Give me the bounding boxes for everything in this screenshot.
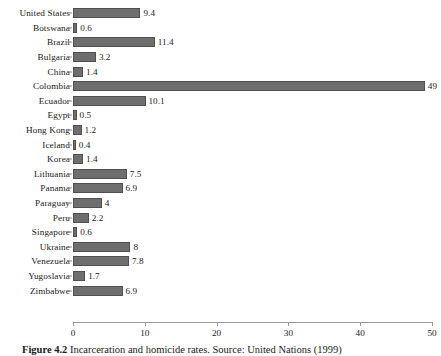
bar-row: Singapore0.6 (0, 225, 441, 240)
figure-caption-label: Figure 4.2 (22, 344, 67, 355)
bar-row: Hong Kong1.2 (0, 123, 441, 138)
bar-row: Colombia49 (0, 79, 441, 94)
bar-value-label: 0.6 (80, 227, 91, 237)
category-label: Singapore (32, 227, 70, 237)
category-tick (67, 276, 72, 277)
bar-row: Lithuania7.5 (0, 167, 441, 182)
bar (73, 23, 77, 33)
category-label: Panama (40, 183, 70, 193)
bar-row: Yugoslavia1.7 (0, 269, 441, 284)
bar-value-label: 4 (105, 198, 110, 208)
bar-row: Zimbabwe6.9 (0, 283, 441, 298)
bar-value-label: 49 (428, 81, 437, 91)
bar (73, 81, 425, 91)
x-axis-tick-label: 10 (140, 328, 149, 338)
category-label: Colombia (33, 81, 70, 91)
category-tick (67, 115, 72, 116)
bar (73, 213, 89, 223)
category-tick (67, 13, 72, 14)
bar (73, 110, 77, 120)
bar-row: Ecuador10.1 (0, 94, 441, 109)
bar (73, 37, 155, 47)
bar (73, 271, 85, 281)
bar-row: Botswana0.6 (0, 21, 441, 36)
category-tick (67, 203, 72, 204)
category-label: Ukraine (40, 242, 70, 252)
x-axis-tick (145, 322, 146, 326)
x-axis-tick-label: 50 (427, 328, 436, 338)
category-tick (67, 173, 72, 174)
category-tick (67, 130, 72, 131)
bar (73, 227, 77, 237)
category-tick (67, 71, 72, 72)
category-tick (67, 232, 72, 233)
bar-value-label: 6.9 (126, 183, 137, 193)
bar (73, 67, 83, 77)
category-label: Paraguay (35, 198, 70, 208)
bar-value-label: 7.5 (130, 169, 141, 179)
bar (73, 183, 123, 193)
bar-value-label: 0.5 (80, 110, 91, 120)
bar-value-label: 1.2 (85, 125, 96, 135)
category-label: Lithuania (34, 169, 70, 179)
bar-value-label: 1.4 (86, 154, 97, 164)
bar-row: Brazil11.4 (0, 35, 441, 50)
category-tick (67, 261, 72, 262)
bar-value-label: 3.2 (99, 52, 110, 62)
bar-row: Iceland0.4 (0, 137, 441, 152)
category-tick (67, 159, 72, 160)
bar-value-label: 1.7 (88, 271, 99, 281)
bar-value-label: 1.4 (86, 67, 97, 77)
bar (73, 125, 82, 135)
x-axis-tick-label: 0 (71, 328, 76, 338)
bar-chart-plot-area: United States9.4Botswana0.6Brazil11.4Bul… (0, 0, 441, 330)
x-axis-tick-label: 30 (284, 328, 293, 338)
category-tick (67, 144, 72, 145)
category-tick (67, 86, 72, 87)
x-axis-tick (73, 322, 74, 326)
x-axis-tick (217, 322, 218, 326)
x-axis-tick-label: 20 (212, 328, 221, 338)
category-label: Bulgaria (38, 52, 70, 62)
bar-value-label: 6.9 (126, 286, 137, 296)
bar (73, 242, 130, 252)
bar-row: Peru2.2 (0, 210, 441, 225)
category-label: Venezuela (31, 256, 70, 266)
bar-value-label: 8 (133, 242, 138, 252)
bar (73, 286, 123, 296)
bar (73, 8, 140, 18)
category-tick (67, 27, 72, 28)
category-tick (67, 217, 72, 218)
bar-value-label: 10.1 (149, 96, 165, 106)
category-tick (67, 42, 72, 43)
bar-row: Venezuela7.8 (0, 254, 441, 269)
figure-caption: Figure 4.2 Incarceration and homicide ra… (22, 343, 422, 356)
bar-row: Bulgaria3.2 (0, 50, 441, 65)
x-axis-tick (432, 322, 433, 326)
bar-row: Panama6.9 (0, 181, 441, 196)
x-axis-tick (288, 322, 289, 326)
bar-row: Korea1.4 (0, 152, 441, 167)
category-tick (67, 100, 72, 101)
bar-value-label: 9.4 (143, 8, 154, 18)
category-tick (67, 246, 72, 247)
bar (73, 96, 146, 106)
bar-value-label: 0.6 (80, 23, 91, 33)
bar-value-label: 2.2 (92, 213, 103, 223)
bar-value-label: 7.8 (132, 256, 143, 266)
x-axis-tick (360, 322, 361, 326)
category-tick (67, 57, 72, 58)
bar-row: China1.4 (0, 64, 441, 79)
category-tick (67, 188, 72, 189)
x-axis-tick-label: 40 (356, 328, 365, 338)
category-label: Hong Kong (26, 125, 70, 135)
bar (73, 154, 83, 164)
category-label: Botswana (33, 23, 70, 33)
x-axis-line (73, 322, 432, 323)
figure-caption-text: Incarceration and homicide rates. Source… (70, 344, 342, 355)
category-label: Yugoslavia (28, 271, 70, 281)
bar (73, 140, 76, 150)
category-label: United States (19, 8, 70, 18)
bar-row: Paraguay4 (0, 196, 441, 211)
category-label: Ecuador (39, 96, 70, 106)
